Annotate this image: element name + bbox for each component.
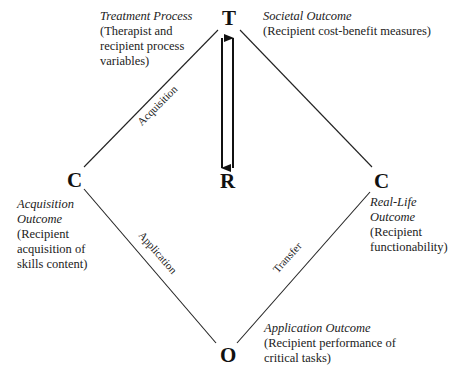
annotation-treatment-process: Treatment Process (Therapist and recipie… <box>100 9 192 69</box>
annotation-societal-outcome: Societal Outcome (Recipient cost-benefit… <box>263 9 431 39</box>
node-c-left: C <box>67 170 82 191</box>
edge-top-right <box>240 30 372 167</box>
annotation-title: Acquisition <box>17 197 87 212</box>
annotation-line: (Recipient performance of <box>264 336 396 351</box>
node-t: T <box>222 8 236 29</box>
annotation-title: Application Outcome <box>264 321 396 336</box>
annotation-application-outcome: Application Outcome (Recipient performan… <box>264 321 396 366</box>
annotation-line: skills content) <box>17 257 87 272</box>
annotation-line: (Recipient <box>17 227 87 242</box>
annotation-line: recipient process <box>100 39 192 54</box>
annotation-title: Treatment Process <box>100 9 192 24</box>
node-c-right: C <box>374 171 389 192</box>
annotation-line: variables) <box>100 54 192 69</box>
edge-label-acquisition: Acquisition <box>135 82 180 127</box>
node-o: O <box>220 345 236 366</box>
annotation-line: functionability) <box>370 240 448 255</box>
annotation-title: Outcome <box>370 210 448 225</box>
edge-left-bottom <box>84 189 216 343</box>
annotation-title: Outcome <box>17 212 87 227</box>
annotation-line: critical tasks) <box>264 351 396 366</box>
annotation-line: acquisition of <box>17 242 87 257</box>
annotation-acquisition-outcome: Acquisition Outcome (Recipient acquisiti… <box>17 197 87 272</box>
annotation-line: (Recipient <box>370 225 448 240</box>
annotation-real-life-outcome: Real-Life Outcome (Recipient functionabi… <box>370 195 448 255</box>
annotation-title: Real-Life <box>370 195 448 210</box>
edge-label-transfer: Transfer <box>270 239 304 275</box>
annotation-title: Societal Outcome <box>263 9 431 24</box>
node-r: R <box>220 171 235 192</box>
annotation-line: (Recipient cost-benefit measures) <box>263 24 431 39</box>
edge-label-application: Application <box>136 229 179 276</box>
annotation-line: (Therapist and <box>100 24 192 39</box>
